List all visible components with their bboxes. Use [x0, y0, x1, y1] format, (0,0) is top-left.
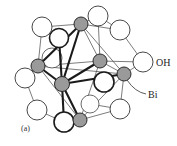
oh-atom-front [54, 112, 74, 132]
bi-atom-right [117, 67, 131, 81]
oh-atom [32, 17, 52, 37]
oh-atom-front [94, 72, 114, 92]
oh-atom [133, 52, 153, 72]
oh-atom [88, 6, 108, 26]
oh-atom [110, 99, 130, 119]
bi-atom-right-mid [93, 54, 107, 68]
bi-label: Bi [148, 89, 158, 100]
panel-label: (a) [21, 124, 30, 133]
oh-label: OH [156, 57, 170, 68]
oh-atom [15, 68, 35, 88]
oh-atom [27, 100, 47, 120]
structure-diagram: OH Bi (a) [0, 0, 177, 146]
oh-atom-back-2 [81, 95, 99, 113]
bi-atom-bottom [73, 113, 87, 127]
bi-atom-center [55, 77, 70, 92]
oh-atom [110, 20, 130, 40]
bi-oh-cluster-figure: OH Bi (a) [0, 0, 177, 146]
bi-atom-top [74, 17, 88, 31]
bi-leader-line [127, 80, 146, 94]
bi-atom-left [31, 59, 45, 73]
oh-atom-front [50, 29, 69, 48]
